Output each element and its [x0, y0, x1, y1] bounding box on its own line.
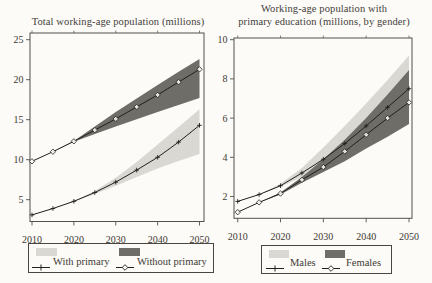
y-tick-label: 6	[223, 113, 228, 124]
y-tick-label: 25	[14, 34, 24, 45]
plus-line-marker-icon	[32, 258, 50, 276]
without-primary-band-swatch	[119, 248, 140, 256]
males-band-swatch	[269, 250, 289, 258]
right-chart-plot: 24681020102020203020402050	[216, 0, 432, 283]
without-primary-legend-label: Without primary	[137, 256, 207, 267]
diamond-marker	[235, 209, 240, 214]
y-tick-label: 4	[223, 152, 228, 163]
y-tick-label: 5	[19, 194, 24, 205]
x-tick-label: 2020	[271, 231, 291, 242]
y-axis: 246810	[218, 34, 235, 202]
plus-marker	[72, 199, 77, 204]
x-tick-label: 2040	[356, 231, 376, 242]
males-legend-label: Males	[290, 257, 316, 268]
diamond-marker	[50, 149, 55, 154]
x-tick-label: 2030	[313, 231, 333, 242]
left-chart-plot: 51015202520102020203020402050	[0, 0, 216, 283]
x-axis: 20102020203020402050	[228, 36, 419, 242]
y-axis: 510152025	[14, 34, 31, 205]
plus-marker	[51, 206, 56, 211]
figure-two-panel-chart: Total working-age population (millions) …	[0, 0, 432, 283]
diamond-marker	[256, 200, 261, 205]
left-legend: With primary Without primary	[28, 243, 214, 273]
x-tick-label: 2010	[228, 231, 248, 242]
y-tick-label: 15	[14, 114, 24, 125]
y-tick-label: 8	[223, 73, 228, 84]
diamond-line-marker-icon	[322, 259, 340, 277]
females-legend-label: Females	[346, 257, 381, 268]
diamond-line-marker-icon	[116, 258, 134, 276]
plus-marker	[235, 199, 240, 204]
with-primary-band-swatch	[36, 248, 57, 256]
plot-frame	[30, 33, 204, 222]
y-tick-label: 20	[14, 74, 24, 85]
y-tick-label: 10	[14, 154, 24, 165]
diamond-marker	[71, 139, 76, 144]
y-tick-label: 2	[223, 191, 228, 202]
with-primary-legend-label: With primary	[53, 256, 109, 267]
females-band-swatch	[325, 250, 345, 258]
right-legend: Males Females	[261, 245, 392, 274]
y-tick-label: 10	[218, 34, 228, 45]
plus-marker	[257, 192, 262, 197]
x-tick-label: 2050	[399, 231, 419, 242]
plus-line-marker-icon	[266, 259, 284, 277]
